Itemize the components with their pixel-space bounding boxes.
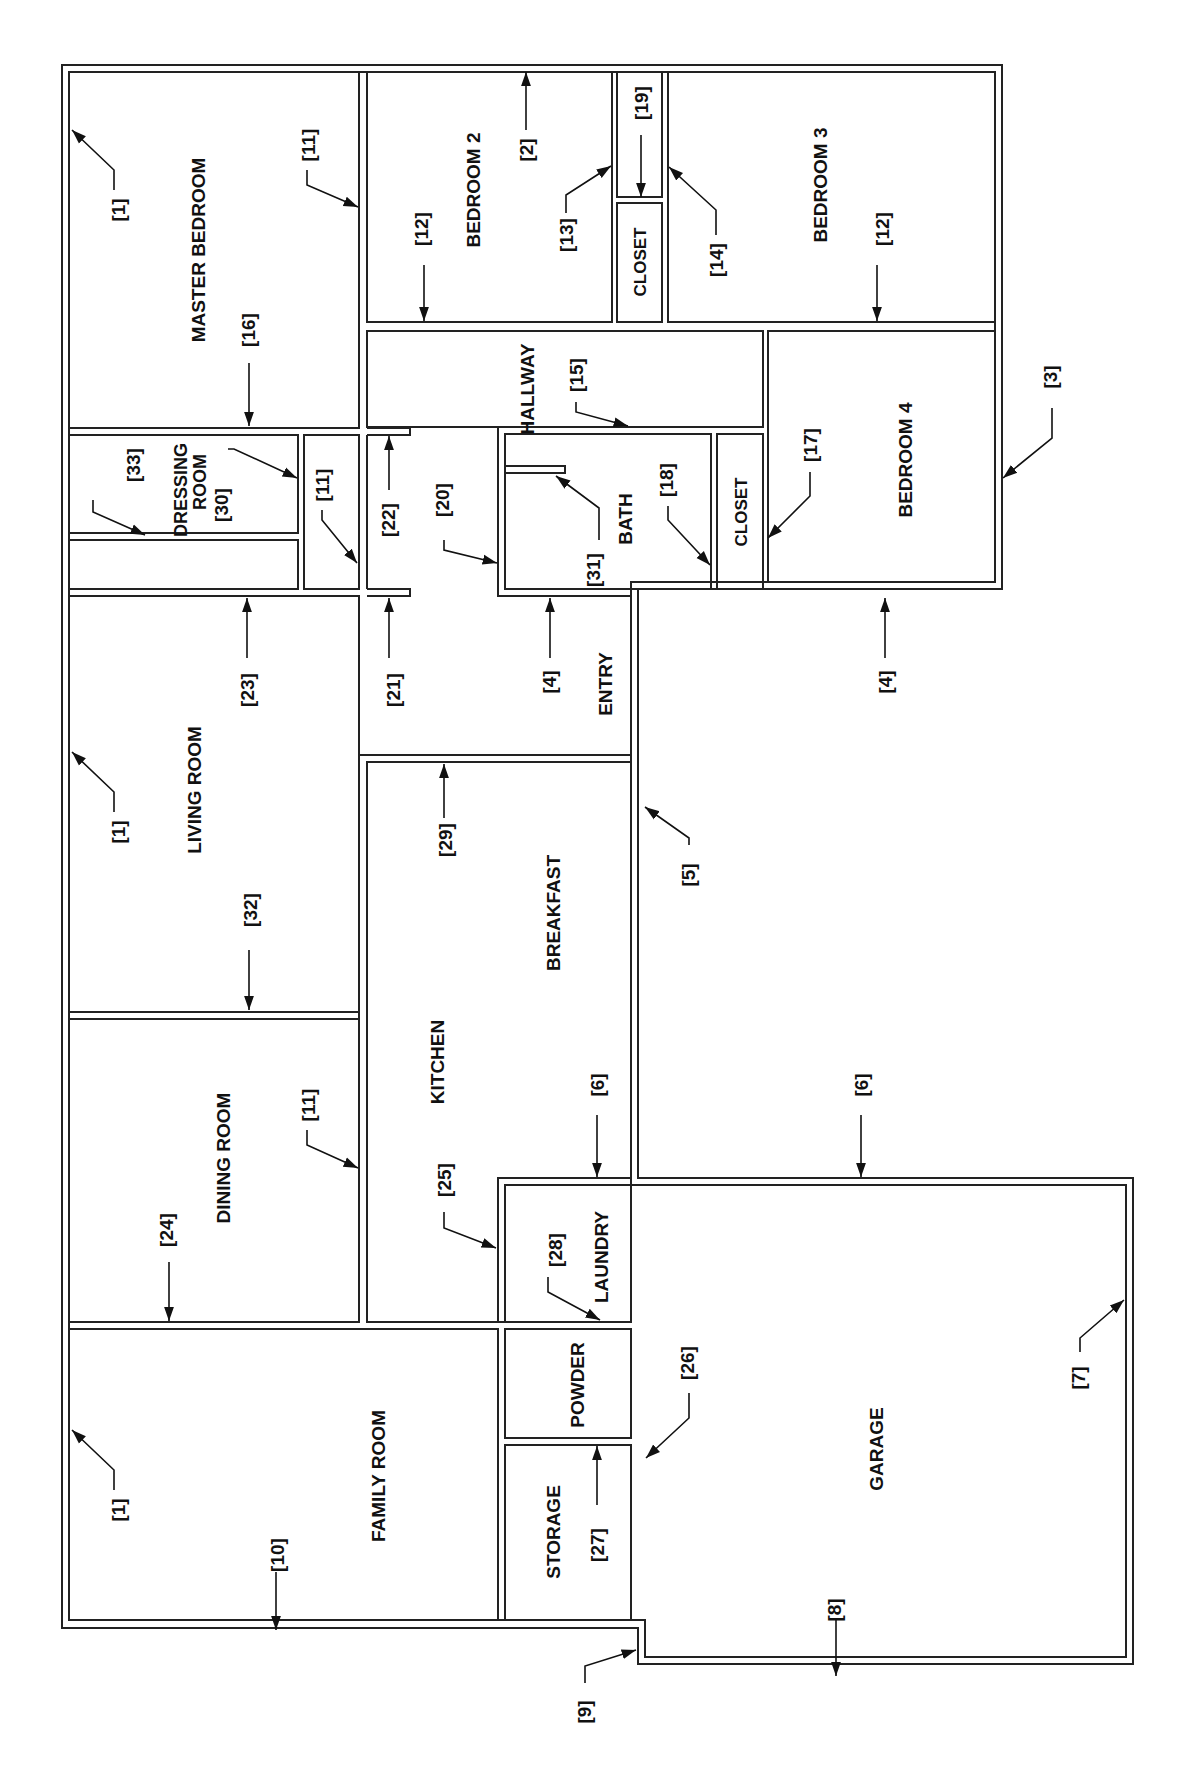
room-label-closet-2: CLOSET xyxy=(732,477,751,547)
svg-text:[5]: [5] xyxy=(678,863,699,886)
svg-text:[26]: [26] xyxy=(677,1346,698,1380)
callout-13: [13] xyxy=(556,166,611,252)
callout-18: [18] xyxy=(656,463,710,565)
callout-4-entry: [4] xyxy=(539,598,560,694)
svg-text:[18]: [18] xyxy=(656,463,677,497)
room-label-entry: ENTRY xyxy=(595,652,616,716)
svg-text:[17]: [17] xyxy=(800,428,821,462)
svg-text:[6]: [6] xyxy=(851,1073,872,1096)
room-label-living-room: LIVING ROOM xyxy=(184,726,205,854)
svg-text:[8]: [8] xyxy=(824,1598,845,1621)
room-labels: MASTER BEDROOM BEDROOM 2 CLOSET BEDROOM … xyxy=(171,127,916,1578)
callout-30: [30] xyxy=(211,449,297,522)
svg-text:[23]: [23] xyxy=(237,673,258,707)
callout-19: [19] xyxy=(631,86,652,197)
callout-23: [23] xyxy=(237,598,258,707)
svg-text:[27]: [27] xyxy=(587,1528,608,1562)
room-label-kitchen: KITCHEN xyxy=(427,1020,448,1104)
svg-text:[1]: [1] xyxy=(108,820,129,843)
room-label-bath: BATH xyxy=(615,493,636,544)
callout-29: [29] xyxy=(435,764,456,857)
floor-plan: MASTER BEDROOM BEDROOM 2 CLOSET BEDROOM … xyxy=(0,0,1194,1772)
svg-text:[1]: [1] xyxy=(108,198,129,221)
svg-text:[7]: [7] xyxy=(1068,1366,1089,1389)
svg-text:[11]: [11] xyxy=(298,129,319,162)
svg-text:[11]: [11] xyxy=(312,469,333,502)
callout-14: [14] xyxy=(669,167,727,277)
callout-32: [32] xyxy=(240,893,261,1010)
callout-17: [17] xyxy=(768,428,821,538)
svg-text:[13]: [13] xyxy=(556,218,577,252)
svg-text:[2]: [2] xyxy=(516,138,537,161)
svg-text:[16]: [16] xyxy=(238,313,259,347)
svg-text:[31]: [31] xyxy=(583,553,604,587)
exterior-walls xyxy=(62,65,1133,1664)
callout-12-bedroom2: [12] xyxy=(411,212,432,321)
room-label-bedroom-2: BEDROOM 2 xyxy=(463,132,484,247)
svg-text:[20]: [20] xyxy=(432,483,453,517)
callout-6-laundry: [6] xyxy=(587,1073,608,1177)
room-label-storage: STORAGE xyxy=(543,1485,564,1579)
callout-10: [10] xyxy=(267,1538,288,1630)
callout-1-living: [1] xyxy=(72,752,129,844)
callout-5: [5] xyxy=(645,807,699,887)
svg-text:[19]: [19] xyxy=(631,86,652,120)
callout-1-family: [1] xyxy=(72,1430,129,1522)
room-label-bedroom-4: BEDROOM 4 xyxy=(895,402,916,518)
svg-text:[12]: [12] xyxy=(872,212,893,246)
svg-text:[1]: [1] xyxy=(108,1498,129,1521)
callout-27: [27] xyxy=(587,1446,608,1562)
svg-text:[6]: [6] xyxy=(587,1073,608,1096)
room-label-breakfast: BREAKFAST xyxy=(543,855,564,972)
svg-text:[33]: [33] xyxy=(123,448,144,482)
callout-11-closet: [11] xyxy=(312,469,357,563)
room-label-family-room: FAMILY ROOM xyxy=(368,1410,389,1542)
callout-25: [25] xyxy=(434,1163,496,1248)
svg-text:[10]: [10] xyxy=(267,1538,288,1572)
callout-2: [2] xyxy=(516,72,537,162)
room-label-laundry: LAUNDRY xyxy=(591,1211,612,1304)
callout-3: [3] xyxy=(1003,365,1061,478)
svg-text:[30]: [30] xyxy=(211,488,232,522)
callout-15: [15] xyxy=(566,358,628,426)
room-label-closet-1: CLOSET xyxy=(631,227,650,297)
room-label-hallway: HALLWAY xyxy=(517,343,538,434)
callout-6-garage: [6] xyxy=(851,1073,872,1177)
svg-text:[29]: [29] xyxy=(435,823,456,857)
svg-text:[14]: [14] xyxy=(706,243,727,277)
callout-11-master: [11] xyxy=(298,129,358,207)
callout-9: [9] xyxy=(574,1650,636,1724)
room-label-powder: POWDER xyxy=(567,1342,588,1428)
callout-1-master: [1] xyxy=(72,130,129,222)
svg-text:[4]: [4] xyxy=(875,670,896,693)
room-label-dining-room: DINING ROOM xyxy=(213,1093,234,1224)
svg-text:[4]: [4] xyxy=(539,670,560,693)
svg-text:[22]: [22] xyxy=(378,503,399,537)
callout-7: [7] xyxy=(1068,1300,1124,1390)
svg-text:[11]: [11] xyxy=(298,1089,319,1122)
callout-22: [22] xyxy=(378,436,399,537)
callout-21: [21] xyxy=(383,598,404,707)
svg-text:[9]: [9] xyxy=(574,1700,595,1723)
callout-33: [33] xyxy=(93,448,145,535)
svg-text:[32]: [32] xyxy=(240,893,261,927)
callout-4-exterior: [4] xyxy=(875,598,896,694)
callout-16: [16] xyxy=(238,313,259,426)
callout-11-dining: [11] xyxy=(298,1089,358,1168)
room-label-dressing-room-1: DRESSING xyxy=(171,443,191,537)
svg-text:[15]: [15] xyxy=(566,358,587,392)
room-label-master-bedroom: MASTER BEDROOM xyxy=(188,158,209,343)
svg-text:[25]: [25] xyxy=(434,1163,455,1197)
callout-20: [20] xyxy=(432,483,497,563)
room-label-garage: GARAGE xyxy=(866,1407,887,1490)
callout-12-bedroom3: [12] xyxy=(872,212,893,321)
room-label-dressing-room-2: ROOM xyxy=(190,454,210,510)
callout-24: [24] xyxy=(156,1213,177,1321)
callout-31: [31] xyxy=(556,476,604,587)
svg-text:[12]: [12] xyxy=(411,212,432,246)
svg-text:[3]: [3] xyxy=(1040,365,1061,388)
svg-text:[21]: [21] xyxy=(383,673,404,707)
room-label-bedroom-3: BEDROOM 3 xyxy=(810,127,831,242)
svg-text:[28]: [28] xyxy=(545,1233,566,1267)
callouts: [1] [11] [16] [12] [2] [13] [19] xyxy=(72,72,1124,1724)
